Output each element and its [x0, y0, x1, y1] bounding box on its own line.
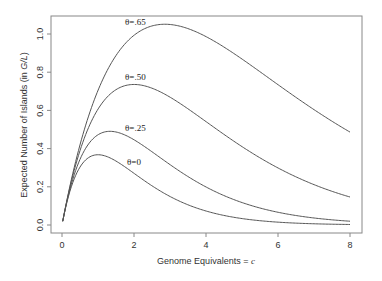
x-axis: 02468: [59, 233, 352, 250]
chart-svg: 02468 0.00.20.40.60.81.0 θ=.65θ=.50θ=.25…: [0, 0, 382, 281]
curve-label: θ=.25: [125, 123, 146, 133]
y-tick-label: 0.0: [35, 219, 45, 232]
y-axis-title-text: Expected Number of Islands (in: [19, 70, 29, 198]
curves: [63, 24, 350, 224]
y-tick-label: 0.2: [35, 181, 45, 194]
curve-065: [63, 24, 350, 221]
x-tick-label: 2: [131, 240, 136, 250]
plot-frame: [51, 16, 362, 233]
x-tick-label: 0: [59, 240, 64, 250]
y-axis: 0.00.20.40.60.81.0: [35, 28, 51, 232]
y-tick-label: 0.4: [35, 142, 45, 155]
x-axis-title-var: c: [251, 256, 255, 266]
x-tick-label: 6: [275, 240, 280, 250]
x-tick-label: 4: [203, 240, 208, 250]
curve-label: θ=.50: [125, 72, 146, 82]
x-axis-title-text: Genome Equivalents =: [157, 256, 251, 266]
curve-0: [63, 155, 350, 225]
y-axis-title-var: G/L: [19, 55, 29, 70]
y-tick-label: 0.6: [35, 104, 45, 117]
x-tick-label: 8: [347, 240, 352, 250]
curve-labels: θ=.65θ=.50θ=.25θ=0: [125, 17, 146, 167]
curve-label: θ=0: [127, 157, 141, 167]
curve-025: [63, 131, 350, 221]
y-axis-title-close: ): [19, 52, 29, 55]
y-tick-label: 1.0: [35, 28, 45, 41]
y-tick-label: 0.8: [35, 66, 45, 79]
curve-label: θ=.65: [125, 17, 146, 27]
x-axis-title: Genome Equivalents = c: [157, 256, 255, 266]
y-axis-title: Expected Number of Islands (in G/L): [19, 52, 29, 198]
